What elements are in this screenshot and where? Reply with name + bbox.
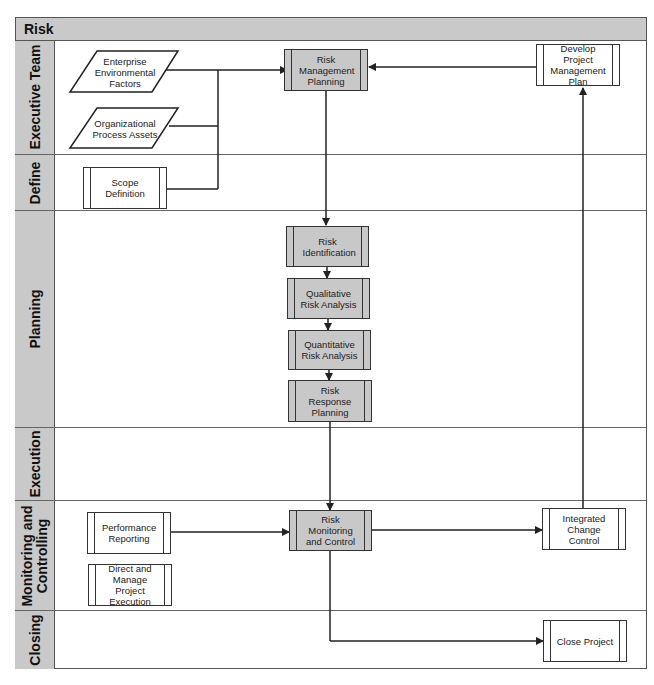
process-performance-reporting[interactable]: Performance Reporting	[87, 512, 171, 554]
process-scope-definition[interactable]: Scope Definition	[83, 167, 167, 209]
input-organizational-process-assets[interactable]: Organizational Process Assets	[80, 109, 170, 149]
process-risk-identification[interactable]: Risk Identification	[286, 226, 369, 267]
process-direct-manage-project-execution[interactable]: Direct and Manage Project Execution	[88, 564, 172, 606]
process-risk-monitoring-control[interactable]: Risk Monitoring and Control	[289, 510, 372, 551]
process-risk-management-planning[interactable]: Risk Management Planning	[284, 49, 368, 91]
input-enterprise-environmental-factors[interactable]: Enterprise Environmental Factors	[80, 52, 170, 92]
process-qualitative-risk-analysis[interactable]: Qualitative Risk Analysis	[287, 278, 370, 319]
process-close-project[interactable]: Close Project	[543, 620, 627, 662]
process-integrated-change-control[interactable]: Integrated Change Control	[542, 508, 626, 550]
process-risk-response-planning[interactable]: Risk Response Planning	[288, 380, 372, 422]
risk-swimlane-diagram: Executive Team Define Planning Execution…	[0, 0, 654, 685]
process-develop-project-management-plan[interactable]: Develop Project Management Plan	[536, 44, 620, 86]
process-quantitative-risk-analysis[interactable]: Quantitative Risk Analysis	[288, 330, 371, 370]
